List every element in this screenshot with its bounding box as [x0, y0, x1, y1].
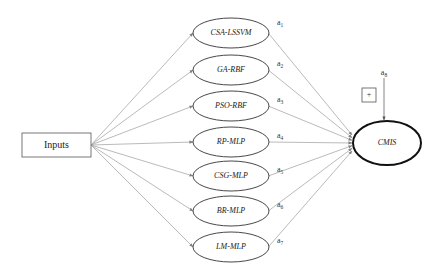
model-node: CSG-MLP	[193, 161, 269, 191]
input-edge	[91, 33, 193, 145]
weight-label: a2	[277, 59, 284, 69]
ensemble-diagram: Inputs CSA-LSSVMGA-RBFPSO-RBFRP-MLPCSG-M…	[0, 0, 435, 280]
model-node: CSA-LSSVM	[193, 18, 269, 48]
model-node: LM-MLP	[193, 232, 269, 262]
output-edge	[268, 148, 352, 211]
sum-box: +	[362, 88, 376, 102]
model-label: LM-MLP	[215, 242, 246, 251]
weight-label: a3	[277, 95, 284, 105]
model-label: CSA-LSSVM	[211, 28, 253, 37]
inputs-label: Inputs	[44, 139, 69, 150]
model-label: CSG-MLP	[214, 171, 248, 180]
weight-label: a4	[277, 131, 284, 141]
input-edges	[91, 33, 193, 247]
bias-weight-label: a8	[381, 68, 388, 78]
model-node: BR-MLP	[193, 196, 269, 226]
model-node: RP-MLP	[193, 127, 269, 157]
input-edge	[91, 70, 193, 145]
model-label: BR-MLP	[217, 206, 246, 215]
model-label: GA-RBF	[217, 65, 245, 74]
input-edge	[91, 142, 193, 145]
input-edge	[91, 106, 193, 145]
inputs-node: Inputs	[22, 133, 91, 157]
model-node: GA-RBF	[193, 55, 269, 85]
plus-icon: +	[367, 90, 372, 99]
model-node: PSO-RBF	[193, 91, 269, 121]
model-label: PSO-RBF	[214, 101, 247, 110]
input-edge	[91, 145, 193, 211]
weight-labels: a1a2a3a4a5a6a7	[277, 18, 284, 246]
weight-label: a7	[277, 236, 284, 246]
cmis-output-node: CMIS	[353, 121, 421, 165]
weight-label: a5	[277, 165, 284, 175]
output-edge	[268, 142, 352, 143]
bias-input: a8	[381, 68, 388, 120]
cmis-label: CMIS	[378, 138, 397, 147]
model-nodes: CSA-LSSVMGA-RBFPSO-RBFRP-MLPCSG-MLPBR-ML…	[193, 18, 269, 262]
output-edge	[268, 151, 352, 247]
weight-label: a1	[277, 18, 284, 28]
weight-label: a6	[277, 200, 284, 210]
model-label: RP-MLP	[216, 137, 246, 146]
output-edge	[268, 33, 352, 135]
